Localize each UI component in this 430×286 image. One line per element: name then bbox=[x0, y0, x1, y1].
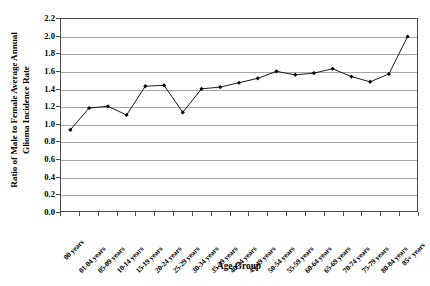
y-tick-label: 0.0 bbox=[44, 207, 55, 217]
data-point-marker bbox=[387, 72, 391, 76]
data-point-marker bbox=[293, 73, 297, 77]
y-tick-label: 0.2 bbox=[44, 189, 55, 199]
data-point-marker bbox=[237, 81, 241, 85]
series-line-glioma-ratio bbox=[61, 19, 417, 211]
data-point-marker bbox=[368, 80, 372, 84]
data-point-marker bbox=[274, 69, 278, 73]
x-axis-title: Age Group bbox=[60, 261, 418, 271]
plot-area bbox=[60, 18, 418, 212]
y-tick-label: 0.4 bbox=[44, 172, 55, 182]
y-tick-label: 1.4 bbox=[44, 84, 55, 94]
x-tick-label: 00 years bbox=[80, 220, 104, 244]
y-tick-label: 2.2 bbox=[44, 13, 55, 23]
data-point-marker bbox=[106, 104, 110, 108]
y-tick-label: 0.6 bbox=[44, 154, 55, 164]
data-point-marker bbox=[256, 76, 260, 80]
y-tick-label: 1.0 bbox=[44, 119, 55, 129]
data-point-marker bbox=[218, 85, 222, 89]
y-tick-label: 1.2 bbox=[44, 101, 55, 111]
y-tick-label: 1.8 bbox=[44, 48, 55, 58]
y-axis-ticks: 0.00.20.40.60.81.01.21.41.61.82.02.2 bbox=[0, 0, 60, 286]
y-tick-label: 2.0 bbox=[44, 31, 55, 41]
y-tick-label: 1.6 bbox=[44, 66, 55, 76]
data-point-marker bbox=[406, 34, 410, 38]
x-axis-tick-labels: 00 years01-04 years05-09 years10-14 year… bbox=[60, 216, 418, 262]
x-tick-label-text: 00 years bbox=[62, 238, 86, 262]
x-tick-mark bbox=[418, 212, 419, 216]
data-point-marker bbox=[331, 67, 335, 71]
data-point-marker bbox=[349, 75, 353, 79]
y-tick-label: 0.8 bbox=[44, 136, 55, 146]
data-point-marker bbox=[312, 71, 316, 75]
